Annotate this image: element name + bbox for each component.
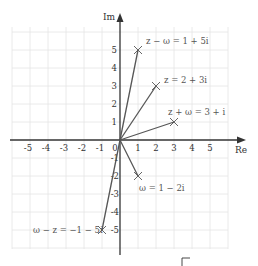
- point-label-w: ω = 1 − 2i: [139, 183, 185, 193]
- point-label-z-minus-w: z − ω = 1 + 5i: [146, 36, 209, 46]
- y-tick: -5: [111, 225, 119, 235]
- x-tick: -5: [24, 143, 32, 153]
- y-axis-label: Im: [103, 12, 116, 22]
- x-tick: -3: [60, 143, 68, 153]
- corner-mark: [182, 258, 190, 266]
- y-tick: 1: [112, 117, 117, 127]
- y-tick: -3: [111, 189, 119, 199]
- real-axis-arrow-icon: [237, 137, 246, 144]
- y-tick: 4: [112, 63, 117, 73]
- x-tick: -2: [78, 143, 86, 153]
- x-tick: -1: [96, 143, 104, 153]
- x-tick: 4: [189, 143, 194, 153]
- x-tick: -4: [42, 143, 50, 153]
- vector-z-plus-w: [120, 122, 174, 140]
- x-tick: 1: [135, 143, 140, 153]
- point-label-z-plus-w: z + ω = 3 + i: [168, 107, 225, 117]
- y-tick: 3: [112, 81, 117, 91]
- x-tick: 3: [171, 143, 176, 153]
- y-tick: 5: [112, 45, 117, 55]
- argand-diagram: Re Im -5 -4 -3 -2 -1 0 1 2 3 4 5 1 2 3 4…: [0, 0, 258, 266]
- x-tick: 2: [153, 143, 158, 153]
- x-tick: 0: [112, 143, 117, 153]
- y-tick: -4: [111, 207, 119, 217]
- x-tick: 5: [207, 143, 212, 153]
- x-axis-label: Re: [235, 145, 247, 155]
- imag-axis-arrow-icon: [117, 13, 124, 22]
- point-label-w-minus-z: ω − z = −1 − 5i: [33, 225, 103, 235]
- y-tick: 2: [112, 99, 117, 109]
- point-label-z: z = 2 + 3i: [164, 75, 207, 85]
- axes: [10, 20, 240, 255]
